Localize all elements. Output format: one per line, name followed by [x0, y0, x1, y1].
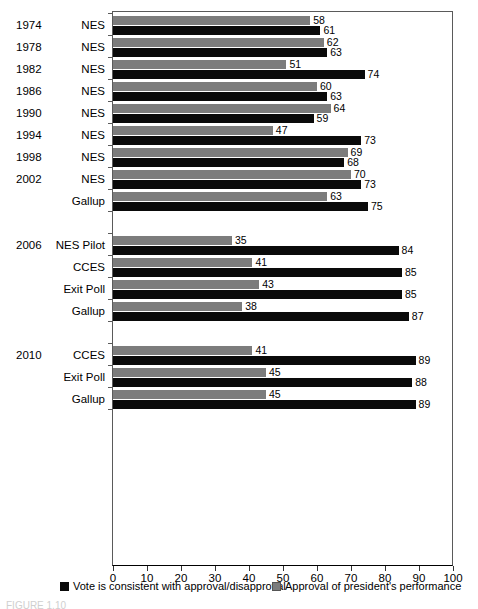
- bar-value-approval: 43: [262, 280, 274, 289]
- row-label-year: 1994: [16, 124, 42, 146]
- x-axis-tick: [317, 566, 318, 571]
- bar-vote: [113, 26, 320, 35]
- row-label: Gallup: [0, 300, 108, 322]
- x-axis-tick: [385, 566, 386, 571]
- bar-value-approval: 41: [255, 346, 267, 355]
- bar-value-vote: 74: [368, 70, 380, 79]
- bar-vote: [113, 48, 327, 57]
- row-label: Exit Poll: [0, 278, 108, 300]
- y-axis-tick: [108, 299, 113, 300]
- row-label-survey: NES: [81, 146, 105, 168]
- row-label-survey: NES Pilot: [56, 234, 105, 256]
- bar-value-vote: 61: [323, 26, 335, 35]
- bar-value-approval: 47: [276, 126, 288, 135]
- bar-value-vote: 63: [330, 48, 342, 57]
- bar-value-vote: 68: [347, 158, 359, 167]
- bar-approval: [113, 302, 242, 311]
- bar-approval: [113, 16, 310, 25]
- bar-value-approval: 45: [269, 390, 281, 399]
- row-label-survey: NES: [81, 58, 105, 80]
- row-label: 1986NES: [0, 80, 108, 102]
- x-axis-tick: [419, 566, 420, 571]
- y-axis-tick: [108, 79, 113, 80]
- x-axis-tick: [351, 566, 352, 571]
- y-axis-tick: [108, 189, 113, 190]
- row-label: 2002NES: [0, 168, 108, 190]
- bar-value-vote: 73: [364, 180, 376, 189]
- y-axis-tick: [108, 277, 113, 278]
- row-label: 1974NES: [0, 14, 108, 36]
- row-label-survey: NES: [81, 168, 105, 190]
- bar-approval: [113, 170, 351, 179]
- bar-approval: [113, 346, 252, 355]
- row-label-survey: NES: [81, 80, 105, 102]
- row-label: Gallup: [0, 388, 108, 410]
- bar-value-vote: 84: [402, 246, 414, 255]
- bar-vote: [113, 180, 361, 189]
- row-label-year: 1978: [16, 36, 42, 58]
- bar-value-approval: 51: [289, 60, 301, 69]
- y-axis-tick: [108, 365, 113, 366]
- bar-value-vote: 73: [364, 136, 376, 145]
- bar-vote: [113, 202, 368, 211]
- row-label-year: 1990: [16, 102, 42, 124]
- bar-vote: [113, 136, 361, 145]
- legend-item: Vote is consistent with approval/disappr…: [60, 578, 286, 594]
- bar-vote: [113, 356, 416, 365]
- y-axis-tick: [108, 145, 113, 146]
- bar-approval: [113, 390, 266, 399]
- bar-vote: [113, 268, 402, 277]
- bar-vote: [113, 158, 344, 167]
- bar-value-vote: 63: [330, 92, 342, 101]
- y-axis-tick: [108, 211, 113, 212]
- row-label: CCES: [0, 256, 108, 278]
- y-axis-tick: [108, 387, 113, 388]
- row-label: 1978NES: [0, 36, 108, 58]
- bar-vote: [113, 378, 412, 387]
- row-label-survey: Gallup: [72, 300, 105, 322]
- bar-value-vote: 59: [317, 114, 329, 123]
- bar-vote: [113, 92, 327, 101]
- row-label-survey: CCES: [73, 344, 105, 366]
- bar-chart-figure: 1974NES1978NES1982NES1986NES1990NES1994N…: [0, 0, 478, 609]
- y-axis-tick: [108, 409, 113, 410]
- y-axis-tick: [108, 343, 113, 344]
- chart-legend: Vote is consistent with approval/disappr…: [0, 578, 478, 594]
- bar-value-approval: 64: [334, 104, 346, 113]
- bar-vote: [113, 246, 399, 255]
- row-labels-column: 1974NES1978NES1982NES1986NES1990NES1994N…: [0, 0, 112, 566]
- bar-vote: [113, 312, 409, 321]
- legend-swatch-gray: [272, 582, 281, 591]
- bar-value-vote: 89: [419, 356, 431, 365]
- bar-approval: [113, 280, 259, 289]
- bar-approval: [113, 38, 324, 47]
- legend-item: Approval of president's performance: [272, 578, 461, 594]
- x-axis-tick: [113, 566, 114, 571]
- row-label-survey: NES: [81, 124, 105, 146]
- bar-value-approval: 45: [269, 368, 281, 377]
- bar-value-vote: 75: [371, 202, 383, 211]
- plot-area: 5861626351746063645947736968707363753584…: [112, 11, 453, 566]
- bar-value-vote: 87: [412, 312, 424, 321]
- bar-approval: [113, 148, 348, 157]
- y-axis-tick: [108, 57, 113, 58]
- bars-layer: 5861626351746063645947736968707363753584…: [113, 12, 452, 565]
- bar-value-approval: 63: [330, 192, 342, 201]
- bar-value-approval: 38: [245, 302, 257, 311]
- row-label-survey: Exit Poll: [63, 366, 105, 388]
- row-label-year: 1986: [16, 80, 42, 102]
- y-axis-tick: [108, 255, 113, 256]
- row-label-survey: NES: [81, 14, 105, 36]
- row-label: 1998NES: [0, 146, 108, 168]
- bar-approval: [113, 104, 331, 113]
- x-axis-tick: [181, 566, 182, 571]
- row-label-year: 2006: [16, 234, 42, 256]
- legend-label: Vote is consistent with approval/disappr…: [73, 580, 286, 592]
- bar-value-vote: 85: [405, 268, 417, 277]
- bar-value-vote: 85: [405, 290, 417, 299]
- bar-value-vote: 89: [419, 400, 431, 409]
- row-label-year: 1982: [16, 58, 42, 80]
- bar-approval: [113, 192, 327, 201]
- x-axis-tick: [283, 566, 284, 571]
- row-label-survey: Gallup: [72, 388, 105, 410]
